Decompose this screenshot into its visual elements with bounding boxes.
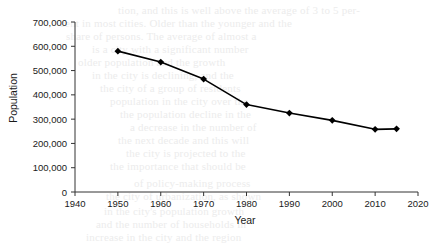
data-point-marker — [114, 48, 121, 55]
data-point-marker — [200, 76, 207, 83]
population-line-chart: 0100,000200,000300,000400,000500,000600,… — [0, 0, 438, 246]
x-tick-label: 1970 — [193, 198, 214, 209]
x-axis-title: Year — [205, 214, 285, 226]
data-point-marker — [372, 126, 379, 133]
y-tick-label: 300,000 — [33, 114, 67, 125]
y-tick-label: 400,000 — [33, 89, 67, 100]
y-tick-label: 0 — [62, 187, 67, 198]
x-tick-label: 1940 — [64, 198, 85, 209]
x-tick-label: 1950 — [107, 198, 128, 209]
y-tick-label: 600,000 — [33, 41, 67, 52]
data-point-marker — [157, 59, 164, 66]
y-tick-label: 200,000 — [33, 138, 67, 149]
x-tick-label: 2020 — [407, 198, 428, 209]
data-point-marker — [393, 125, 400, 132]
data-point-marker — [243, 101, 250, 108]
y-tick-label: 700,000 — [33, 17, 67, 28]
y-axis-ticks: 0100,000200,000300,000400,000500,000600,… — [33, 17, 75, 198]
x-tick-label: 2010 — [365, 198, 386, 209]
x-tick-label: 1960 — [150, 198, 171, 209]
x-tick-label: 2000 — [322, 198, 343, 209]
y-axis-title: Population — [7, 58, 19, 138]
y-tick-label: 100,000 — [33, 162, 67, 173]
x-tick-label: 1980 — [236, 198, 257, 209]
x-axis-ticks: 194019501960197019801990200020102020 — [64, 192, 428, 209]
x-tick-label: 1990 — [279, 198, 300, 209]
data-point-marker — [286, 110, 293, 117]
y-tick-label: 500,000 — [33, 65, 67, 76]
chart-page: tion, and this is well above the average… — [0, 0, 438, 246]
data-point-marker — [329, 117, 336, 124]
